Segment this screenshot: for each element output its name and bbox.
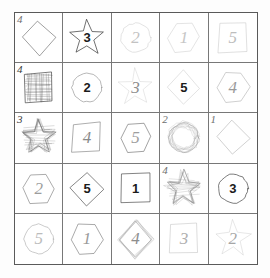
square-icon	[112, 164, 159, 213]
hexagon-icon	[160, 13, 207, 62]
circle-icon	[160, 113, 207, 162]
cell-r1c3[interactable]: 2	[112, 13, 160, 63]
square-icon	[63, 113, 110, 162]
circle-icon	[15, 214, 62, 264]
hexagon-icon	[112, 113, 159, 162]
cell-r2c1[interactable]: 4	[15, 63, 63, 113]
cell-r3c1[interactable]: 3	[15, 113, 63, 163]
square-icon	[209, 13, 257, 62]
circle-icon	[112, 13, 159, 62]
cell-r2c2[interactable]: 2	[63, 63, 111, 113]
cell-r4c2[interactable]: 5	[63, 164, 111, 214]
cell-r5c4[interactable]: 3	[160, 214, 208, 264]
diamond-icon	[63, 164, 110, 213]
diamond-icon	[209, 113, 257, 162]
cell-r3c4[interactable]: 2	[160, 113, 208, 163]
star-icon	[112, 63, 159, 112]
shape-grid: 4321542354345212514351432	[14, 12, 258, 265]
cell-r5c1[interactable]: 5	[15, 214, 63, 264]
diamond-icon	[160, 63, 207, 112]
diamond-icon	[112, 214, 159, 264]
cell-r3c2[interactable]: 4	[63, 113, 111, 163]
star-icon	[209, 214, 257, 264]
screenshot-canvas: 4321542354345212514351432	[0, 0, 270, 278]
cell-r4c5[interactable]: 3	[209, 164, 257, 214]
cell-r1c1[interactable]: 4	[15, 13, 63, 63]
hexagon-icon	[63, 214, 110, 264]
cell-r1c2[interactable]: 3	[63, 13, 111, 63]
hexagon-icon	[209, 63, 257, 112]
star-icon	[63, 13, 110, 62]
circle-icon	[209, 164, 257, 213]
square-icon	[15, 63, 62, 112]
cell-r4c4[interactable]: 4	[160, 164, 208, 214]
cell-r4c3[interactable]: 1	[112, 164, 160, 214]
cell-r5c2[interactable]: 1	[63, 214, 111, 264]
cell-r4c1[interactable]: 2	[15, 164, 63, 214]
star-icon	[15, 113, 62, 162]
cell-r2c3[interactable]: 3	[112, 63, 160, 113]
cell-r5c5[interactable]: 2	[209, 214, 257, 264]
diamond-icon	[15, 13, 62, 62]
square-icon	[160, 214, 207, 264]
cell-r2c5[interactable]: 4	[209, 63, 257, 113]
hexagon-icon	[15, 164, 62, 213]
cell-r2c4[interactable]: 5	[160, 63, 208, 113]
cell-r3c3[interactable]: 5	[112, 113, 160, 163]
cell-r3c5[interactable]: 1	[209, 113, 257, 163]
cell-r5c3[interactable]: 4	[112, 214, 160, 264]
cell-r1c4[interactable]: 1	[160, 13, 208, 63]
star-icon	[160, 164, 207, 213]
circle-icon	[63, 63, 110, 112]
cell-r1c5[interactable]: 5	[209, 13, 257, 63]
